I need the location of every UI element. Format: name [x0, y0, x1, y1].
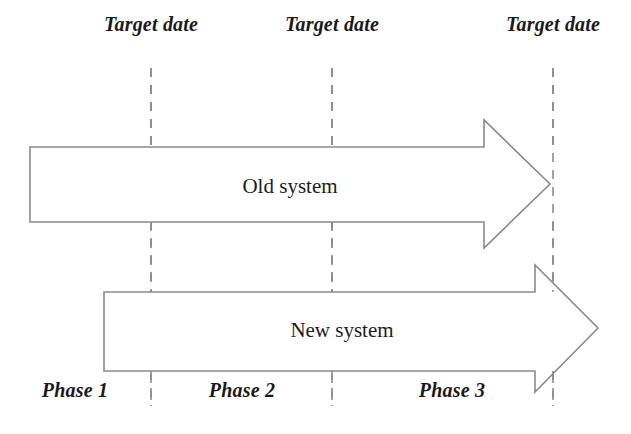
- phase-label-1: Phase 1: [42, 380, 108, 400]
- old-system-label: Old system: [242, 176, 337, 197]
- phase-migration-diagram: Target dateTarget dateTarget date Old sy…: [0, 0, 631, 434]
- diagram-canvas: [0, 0, 631, 434]
- target-date-label-1: Target date: [104, 14, 198, 34]
- phase-label-2: Phase 2: [209, 380, 275, 400]
- target-date-label-2: Target date: [285, 14, 379, 34]
- target-date-label-3: Target date: [506, 14, 600, 34]
- system-arrows: [30, 120, 598, 392]
- phase-label-3: Phase 3: [419, 380, 485, 400]
- new-system-label: New system: [290, 320, 393, 341]
